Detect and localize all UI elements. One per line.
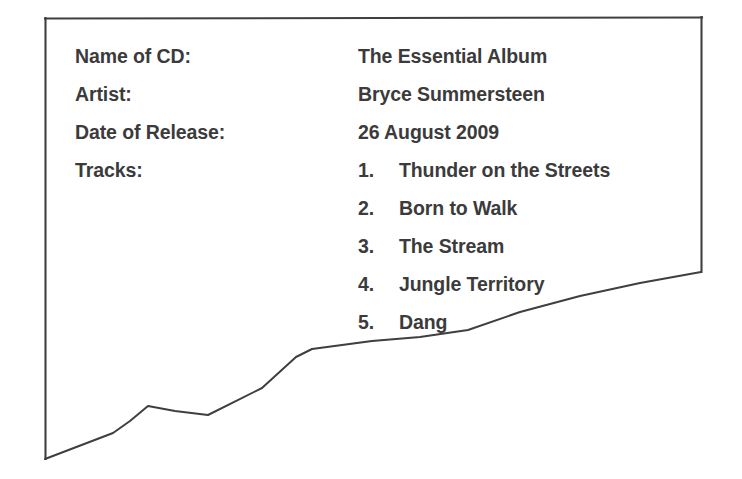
document-canvas: Name of CD: The Essential Album Artist: … [0,0,742,479]
track-list-item: 1. Thunder on the Streets [358,159,718,187]
track-title: Born to Walk [399,197,517,220]
field-value-name-of-cd: The Essential Album [358,45,547,68]
track-list-item: 5. Dang [358,311,718,339]
track-number: 1. [358,159,374,182]
track-list-item: 2. Born to Walk [358,197,718,225]
field-row-artist: Artist: Bryce Summersteen [75,83,715,111]
track-number: 2. [358,197,374,220]
field-label-date-of-release: Date of Release: [75,121,225,144]
track-number: 3. [358,235,374,258]
field-value-date-of-release: 26 August 2009 [358,121,499,144]
track-list-item: 4. Jungle Territory [358,273,718,301]
field-row-name-of-cd: Name of CD: The Essential Album [75,45,715,73]
card-text-layer: Name of CD: The Essential Album Artist: … [0,0,742,479]
track-list-item: 3. The Stream [358,235,718,263]
track-number: 5. [358,311,374,334]
field-label-artist: Artist: [75,83,132,106]
track-number: 4. [358,273,374,296]
field-row-date-of-release: Date of Release: 26 August 2009 [75,121,715,149]
track-title: The Stream [399,235,504,258]
field-label-name-of-cd: Name of CD: [75,45,191,68]
field-value-artist: Bryce Summersteen [358,83,545,106]
track-title: Thunder on the Streets [399,159,610,182]
track-title: Dang [399,311,447,334]
track-title: Jungle Territory [399,273,544,296]
field-label-tracks: Tracks: [75,159,143,182]
